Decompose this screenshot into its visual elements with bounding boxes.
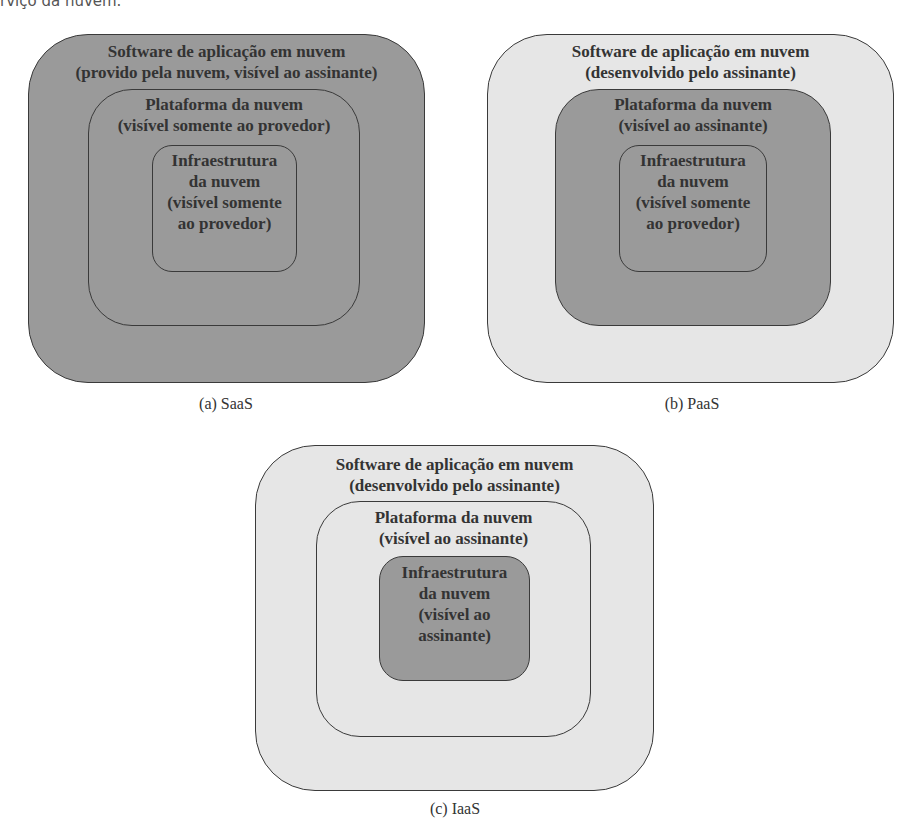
- paas-infrastructure-layer: Infraestrutura da nuvem (visível somente…: [619, 145, 767, 272]
- saas-platform-title: Plataforma da nuvem: [145, 94, 303, 115]
- paas-infra-line3: (visível somente: [636, 192, 751, 213]
- iaas-infra-line2: da nuvem: [419, 583, 490, 604]
- paas-platform-title: Plataforma da nuvem: [614, 94, 772, 115]
- iaas-infra-line3: (visível ao: [418, 604, 490, 625]
- paas-infra-line2: da nuvem: [657, 171, 728, 192]
- saas-infra-line2: da nuvem: [189, 171, 260, 192]
- iaas-infra-line4: assinante): [418, 625, 491, 646]
- paas-infra-line4: ao provedor): [646, 213, 740, 234]
- saas-infra-line1: Infraestrutura: [172, 150, 278, 171]
- saas-infra-line3: (visível somente: [167, 192, 282, 213]
- paas-application-title: Software de aplicação em nuvem: [572, 41, 810, 62]
- iaas-application-title: Software de aplicação em nuvem: [336, 454, 574, 475]
- saas-infrastructure-layer: Infraestrutura da nuvem (visível somente…: [152, 145, 297, 272]
- paas-caption: (b) PaaS: [592, 395, 792, 413]
- iaas-caption: (c) IaaS: [355, 800, 555, 818]
- iaas-infrastructure-layer: Infraestrutura da nuvem (visível ao assi…: [379, 556, 530, 681]
- saas-infra-line4: ao provedor): [178, 213, 272, 234]
- cropped-heading-fragment: rviço da nuvem.: [0, 0, 121, 10]
- iaas-platform-title: Plataforma da nuvem: [375, 507, 533, 528]
- iaas-platform-visibility: (visível ao assinante): [379, 528, 528, 549]
- paas-application-visibility: (desenvolvido pelo assinante): [585, 62, 796, 83]
- saas-caption: (a) SaaS: [126, 395, 326, 413]
- saas-application-visibility: (provido pela nuvem, visível ao assinant…: [76, 62, 378, 83]
- saas-platform-visibility: (visível somente ao provedor): [118, 115, 331, 136]
- paas-platform-visibility: (visível ao assinante): [618, 115, 767, 136]
- iaas-application-visibility: (desenvolvido pelo assinante): [349, 475, 560, 496]
- paas-infra-line1: Infraestrutura: [640, 150, 746, 171]
- iaas-infra-line1: Infraestrutura: [402, 562, 508, 583]
- saas-application-title: Software de aplicação em nuvem: [108, 41, 346, 62]
